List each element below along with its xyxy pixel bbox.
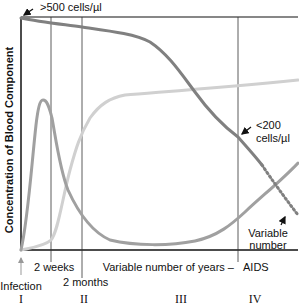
phase-2: II [80,292,88,306]
tick-2-months: 2 months [63,276,109,288]
annotation-mid: <200 cells/µl [242,119,290,144]
tick-2-weeks: 2 weeks [34,261,75,273]
phase-1: I [19,292,23,306]
arrow-icon [242,127,251,134]
y-axis-label: Concentration of Blood Component [3,46,15,233]
annotation-mid-line1: <200 [256,119,281,131]
annotation-variable-line2: number [249,239,287,251]
arrow-icon [24,9,33,15]
annotation-top: >500 cells/µl [24,1,102,15]
light-gray-curve [21,80,298,250]
x-axis-labels: 2 weeks 2 months Variable number of year… [34,261,269,288]
tick-variable-years: Variable number of years – [103,261,235,273]
phase-divider-lines [51,17,238,278]
phase-4: IV [249,292,262,306]
chart-figure: >500 cells/µl <200 cells/µl Variable num… [0,0,299,307]
phase-3: III [175,292,187,306]
annotation-mid-line2: cells/µl [256,132,290,144]
annotation-top-text: >500 cells/µl [40,1,102,13]
tick-aids: AIDS [243,261,269,273]
annotation-variable-line1: Variable [248,227,288,239]
infection-label: Infection [0,280,42,292]
phase-labels: I II III IV [19,292,262,306]
arrow-icon [281,217,285,225]
annotation-variable: Variable number [248,217,288,251]
